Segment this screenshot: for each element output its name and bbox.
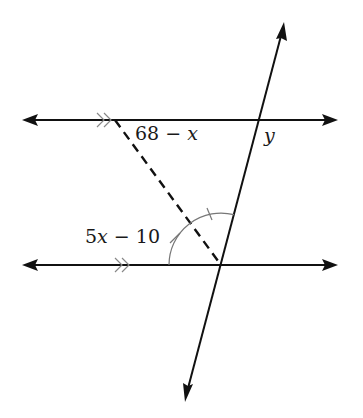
- angle-label-y: y: [264, 126, 275, 145]
- angle-top-variable: x: [187, 122, 198, 144]
- geometry-diagram: [0, 0, 363, 418]
- angle-bottom-variable: x: [97, 225, 108, 247]
- angle-bottom-constant: − 10: [108, 225, 160, 247]
- angle-label-bottom: 5x − 10: [85, 227, 160, 246]
- bottom-parallel-line: [22, 258, 338, 272]
- arrow-up-icon: [276, 22, 287, 41]
- transversal-line: [183, 22, 287, 402]
- angle-bottom-coefficient: 5: [85, 225, 97, 247]
- angle-arc: [169, 208, 234, 265]
- angle-y-variable: y: [264, 124, 275, 146]
- angle-label-top: 68 − x: [135, 124, 198, 143]
- angle-top-number: 68 −: [135, 122, 187, 144]
